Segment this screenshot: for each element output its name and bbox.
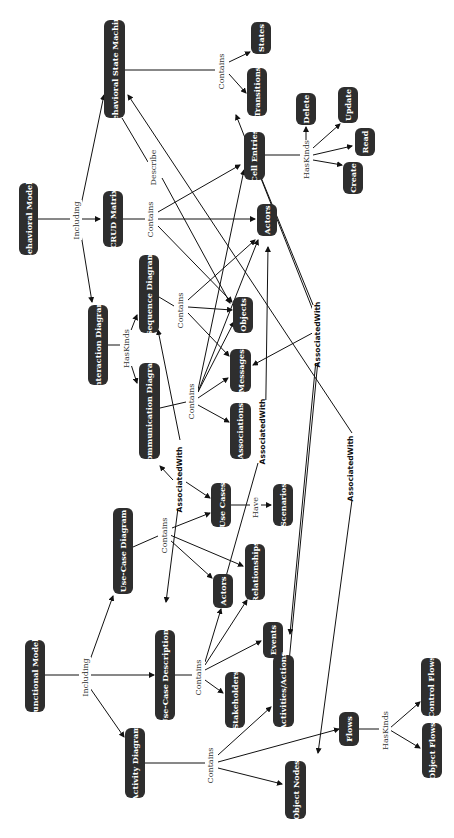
node-update[interactable]: Update [338,87,358,123]
node-create[interactable]: Create [343,162,363,194]
node-use-case-descriptions[interactable]: Use-Case Descriptions [155,630,175,720]
node-object-flows[interactable]: Object Flows [422,723,442,778]
node-actors-mid[interactable]: Actors [213,574,233,608]
edge-label-have: Have [250,496,261,518]
node-use-cases[interactable]: Use Cases [211,483,231,527]
node-cell-entries[interactable]: Cell Entries [244,132,265,180]
node-activity-diagram[interactable]: Activity Diagram [125,728,145,798]
edge-label-contains-crud: Contains [145,202,157,236]
node-behavioral-models[interactable]: Behavioral Models [19,183,38,255]
node-sequence-diagram[interactable]: Sequence Diagram [139,255,159,333]
edge-label-describe: Describe [148,150,160,184]
node-read[interactable]: Read [355,128,375,156]
edge-label-contains-sequence: Contains [175,293,187,327]
node-object-nodes[interactable]: Object Nodes [285,761,306,819]
edge-label-haskinds-interaction: HasKinds [120,330,132,366]
edge-label-haskinds-flows: HasKinds [379,712,391,748]
edge-label-contains-usecase-desc: Contains [193,660,205,694]
node-stakeholders[interactable]: Stakeholders [225,672,245,728]
node-functional-models[interactable]: Functional Models [25,640,45,712]
node-interaction-diagram[interactable]: Interaction Diagram [88,305,108,385]
node-actors-top[interactable]: Actors [257,204,277,236]
edge-label-contains-communication: Contains [186,384,198,418]
node-activities-actions[interactable]: Activities/Actions [273,655,294,727]
node-use-case-diagram[interactable]: Use-Case Diagram [113,508,133,594]
edge-label-associated-with-3: AssociatedWith [312,305,324,363]
node-flows[interactable]: Flows [339,712,359,746]
node-transitions[interactable]: Transitions [247,68,267,116]
edge-label-haskinds-crud: HasKinds [300,140,312,178]
node-behavioral-state-machine[interactable]: Behavioral State Machine [104,20,125,118]
node-states[interactable]: States [251,22,271,54]
edge-label-contains-activity: Contains [205,748,217,782]
edge-label-contains-usecase-diagram: Contains [159,518,171,552]
edge-label-associated-with-2: AssociatedWith [257,400,269,462]
edge-label-contains-bsm: Contains [216,54,228,88]
edge-label-including-functional: Including [79,657,91,697]
node-scenarios[interactable]: Scenarios [273,484,293,526]
node-associations[interactable]: Associations [230,403,251,459]
edge-label-associated-with-1: AssociatedWith [174,448,186,510]
node-delete[interactable]: Delete [296,93,316,125]
node-messages[interactable]: Messages [230,349,251,392]
node-relationships[interactable]: Relationships [245,544,265,600]
edge-label-including-behavioral: Including [70,200,82,240]
node-communication-diagram[interactable]: Communication Diagram [139,363,160,459]
node-control-flows[interactable]: Control Flows [421,658,441,716]
node-crud-matrix[interactable]: CRUD Matrix [103,191,123,247]
node-objects[interactable]: Objects [233,297,253,333]
edge-label-associated-with-4: AssociatedWith [345,437,357,499]
